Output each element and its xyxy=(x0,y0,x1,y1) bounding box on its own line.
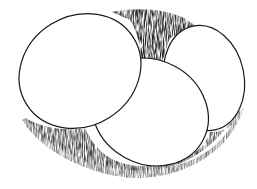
eggs-in-nest-illustration xyxy=(0,0,257,189)
